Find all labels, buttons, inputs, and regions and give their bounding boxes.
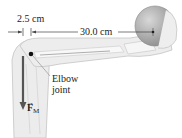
elbow-joint-dot <box>29 52 34 57</box>
elbow-label-line2: joint <box>52 85 70 95</box>
forearm-diagram: 2.5 cm 30.0 cm Elbow joint → FM <box>0 0 182 138</box>
dimension-long-label: 30.0 cm <box>80 27 112 37</box>
force-label: → FM <box>27 103 39 116</box>
force-subscript: M <box>33 107 39 115</box>
elbow-label-line1: Elbow <box>52 74 78 84</box>
dimension-short-label: 2.5 cm <box>17 14 44 24</box>
